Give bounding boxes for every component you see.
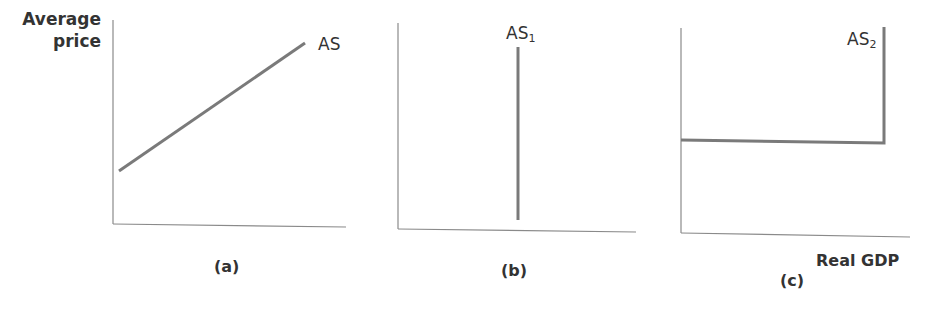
x-axis-label: Real GDP [816, 251, 899, 270]
panel-a [113, 20, 346, 227]
as-label-text: AS [318, 34, 340, 54]
panel-b [398, 23, 636, 232]
as2-label-subscript: 2 [869, 38, 876, 51]
y-axis-label: Average price [22, 8, 101, 52]
y-axis-label-line-2: price [22, 30, 101, 52]
as2-curve-label: AS2 [847, 29, 876, 51]
as1-label-subscript: 1 [528, 32, 535, 45]
diagram-canvas [0, 0, 927, 314]
as-curve [119, 43, 305, 171]
as1-label-text: AS [506, 23, 528, 43]
panel-a-label: (a) [214, 257, 239, 276]
panel-c [681, 27, 910, 237]
panel-b-label: (b) [501, 261, 527, 280]
as-curve-label: AS [318, 34, 340, 54]
panel-b-x-axis [398, 229, 636, 232]
panel-c-x-axis [681, 233, 910, 237]
as2-label-text: AS [847, 29, 869, 49]
as1-curve-label: AS1 [506, 23, 535, 45]
y-axis-label-line-1: Average [22, 8, 101, 30]
panel-a-x-axis [113, 224, 346, 227]
panel-c-label: (c) [780, 271, 804, 290]
